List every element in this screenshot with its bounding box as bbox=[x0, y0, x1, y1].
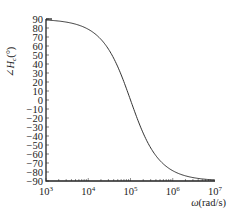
phase-curve bbox=[46, 20, 215, 180]
x-tick-label: 107 bbox=[208, 185, 223, 197]
x-tick-label: 104 bbox=[81, 185, 96, 197]
y-tick-label: −90 bbox=[27, 176, 43, 187]
x-tick-label: 106 bbox=[166, 185, 181, 197]
x-tick-label: 103 bbox=[39, 185, 54, 197]
y-axis-label: ∠Hc(°) bbox=[5, 46, 18, 77]
x-tick-label: 105 bbox=[124, 185, 139, 197]
phase-plot: 9080706050403020100−10−20−30−40−50−60−70… bbox=[0, 0, 231, 215]
x-axis-label: ω(rad/s) bbox=[191, 197, 226, 209]
